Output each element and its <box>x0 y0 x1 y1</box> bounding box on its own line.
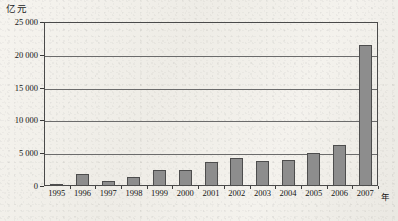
x-tick-mark-2006 <box>352 186 353 189</box>
x-tick-label-2006: 2006 <box>331 188 348 198</box>
x-tick-mark-1997 <box>121 186 122 189</box>
y-tick-mark-10000 <box>40 120 44 121</box>
x-tick-label-1996: 1996 <box>74 188 91 198</box>
y-axis-unit-label: 亿元 <box>6 1 27 15</box>
y-tick-mark-5000 <box>40 153 44 154</box>
x-tick-label-2005: 2005 <box>305 188 322 198</box>
bar-2006 <box>333 145 346 186</box>
bar-2004 <box>282 160 295 186</box>
x-tick-mark-2000 <box>198 186 199 189</box>
bar-2001 <box>205 162 218 186</box>
x-tick-mark-1998 <box>147 186 148 189</box>
x-axis-tick-labels: 1995199619971998199920002001200220032004… <box>44 188 378 204</box>
y-tick-label-25000: 25 000 <box>15 17 38 27</box>
x-tick-mark-2007 <box>378 186 379 189</box>
x-tick-label-1997: 1997 <box>100 188 117 198</box>
bar-chart: 亿元 05 00010 00015 00020 00025 000 199519… <box>0 0 398 221</box>
y-tick-label-5000: 5 000 <box>19 148 38 158</box>
bar-1997 <box>102 181 115 186</box>
x-tick-label-2002: 2002 <box>228 188 245 198</box>
y-tick-mark-20000 <box>40 55 44 56</box>
bar-1996 <box>76 174 89 186</box>
bar-1999 <box>153 170 166 186</box>
bars-layer <box>44 22 378 186</box>
bar-2003 <box>256 161 269 186</box>
x-tick-mark-2003 <box>275 186 276 189</box>
x-tick-mark-2004 <box>301 186 302 189</box>
x-tick-label-1995: 1995 <box>48 188 65 198</box>
bar-2005 <box>307 153 320 186</box>
x-tick-label-1998: 1998 <box>125 188 142 198</box>
x-tick-label-2003: 2003 <box>254 188 271 198</box>
y-tick-mark-0 <box>40 186 44 187</box>
x-tick-label-2000: 2000 <box>177 188 194 198</box>
y-tick-label-0: 0 <box>34 181 38 191</box>
x-tick-mark-2002 <box>250 186 251 189</box>
x-axis-unit-label: 年 <box>381 190 390 202</box>
bar-1998 <box>127 177 140 187</box>
y-tick-mark-25000 <box>40 22 44 23</box>
x-tick-label-2001: 2001 <box>203 188 220 198</box>
x-tick-mark-1999 <box>172 186 173 189</box>
bar-2000 <box>179 170 192 186</box>
bar-1995 <box>50 184 63 186</box>
x-tick-label-1999: 1999 <box>151 188 168 198</box>
x-tick-label-2004: 2004 <box>280 188 297 198</box>
x-tick-mark-1995 <box>70 186 71 189</box>
x-tick-mark-1996 <box>95 186 96 189</box>
y-tick-label-20000: 20 000 <box>15 50 38 60</box>
y-tick-label-10000: 10 000 <box>15 115 38 125</box>
x-tick-mark-2005 <box>327 186 328 189</box>
x-tick-mark-2001 <box>224 186 225 189</box>
bar-2007 <box>359 45 372 186</box>
x-tick-label-2007: 2007 <box>357 188 374 198</box>
y-tick-label-15000: 15 000 <box>15 83 38 93</box>
y-tick-mark-15000 <box>40 88 44 89</box>
bar-2002 <box>230 158 243 186</box>
